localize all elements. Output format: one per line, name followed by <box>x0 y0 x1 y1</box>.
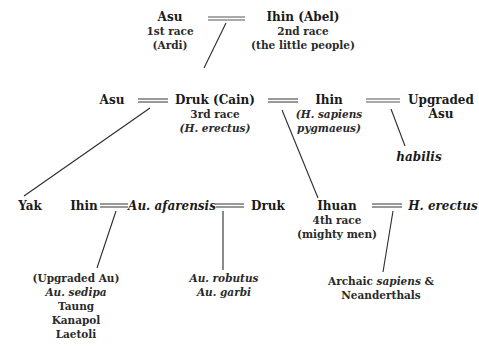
node-note: (mighty men) <box>297 227 377 241</box>
node-name: Ihin <box>70 199 98 213</box>
node-name: Asu <box>100 93 125 107</box>
node-race: 2nd race <box>251 24 355 38</box>
node-h-erectus: H. erectus <box>408 199 478 213</box>
node-robutus-group: Au. robutus Au. garbi <box>190 271 259 299</box>
node-race: 3rd race <box>175 107 255 121</box>
node-druk: Druk <box>251 199 285 213</box>
node-line2: Au. sedipa <box>33 285 120 299</box>
node-line1: Archaic sapiens & <box>328 274 434 288</box>
node-name: habilis <box>396 150 441 164</box>
node-name-line1: Upgraded <box>408 93 474 107</box>
node-line2: Au. garbi <box>190 285 259 299</box>
node-species-line1: (H. sapiens <box>296 107 362 121</box>
node-name: Ihin (Abel) <box>251 10 355 24</box>
node-au-afarensis: Au. afarensis <box>128 199 216 213</box>
node-line2: Neanderthals <box>328 288 434 302</box>
node-line3: Taung <box>33 299 120 313</box>
node-name-line2: Asu <box>408 107 474 121</box>
node-species-line2: pygmaeus) <box>296 121 362 135</box>
node-asu: Asu <box>100 93 125 107</box>
node-note: (the little people) <box>251 38 355 52</box>
node-line1: Au. robutus <box>190 271 259 285</box>
node-name: Druk (Cain) <box>175 93 255 107</box>
text-sapiens: sapiens <box>377 275 421 287</box>
node-line4: Kanapol <box>33 313 120 327</box>
node-name: Druk <box>251 199 285 213</box>
node-name: Ihuan <box>297 199 377 213</box>
node-species: (H. erectus) <box>175 121 255 135</box>
node-race: 1st race <box>146 24 193 38</box>
node-race: 4th race <box>297 213 377 227</box>
node-name: Asu <box>146 10 193 24</box>
node-name: H. erectus <box>408 199 478 213</box>
node-ihin-abel: Ihin (Abel) 2nd race (the little people) <box>251 10 355 52</box>
node-name: Au. afarensis <box>128 199 216 213</box>
node-note: (Ardi) <box>146 38 193 52</box>
node-name: Yak <box>18 199 42 213</box>
node-druk-cain: Druk (Cain) 3rd race (H. erectus) <box>175 93 255 135</box>
node-name: Ihin <box>296 93 362 107</box>
node-ihuan: Ihuan 4th race (mighty men) <box>297 199 377 241</box>
text-ampersand: & <box>421 275 434 287</box>
node-ihin-row3: Ihin <box>70 199 98 213</box>
node-habilis: habilis <box>396 150 441 164</box>
node-yak: Yak <box>18 199 42 213</box>
node-upgraded-au-group: (Upgraded Au) Au. sedipa Taung Kanapol L… <box>33 271 120 341</box>
node-ihin-pygmaeus: Ihin (H. sapiens pygmaeus) <box>296 93 362 135</box>
text-archaic: Archaic <box>328 275 377 287</box>
node-upgraded-asu: Upgraded Asu <box>408 93 474 121</box>
node-archaic-group: Archaic sapiens & Neanderthals <box>328 274 434 302</box>
node-line5: Laetoli <box>33 327 120 341</box>
node-asu-1st-race: Asu 1st race (Ardi) <box>146 10 193 52</box>
node-line1: (Upgraded Au) <box>33 271 120 285</box>
